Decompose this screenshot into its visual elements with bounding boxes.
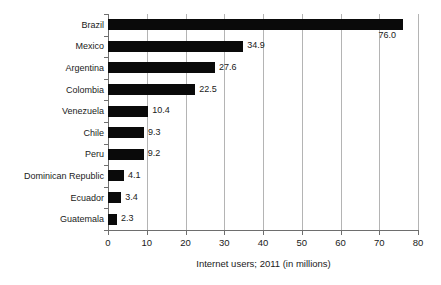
category-label: Colombia [0,85,104,95]
x-axis-tick-label: 50 [287,237,317,248]
x-axis-tick-label: 10 [132,237,162,248]
x-axis-tick-label: 60 [326,237,356,248]
bar-value-label: 2.3 [121,213,134,224]
y-axis-tick [104,165,108,166]
bar-value-label: 34.9 [247,40,265,51]
x-axis-tick-50 [302,231,303,235]
category-label: Mexico [0,41,104,51]
plot-area: 76.034.927.622.510.49.39.24.13.42.3 [108,14,418,230]
x-axis-tick-label: 30 [209,237,239,248]
bar-value-label: 10.4 [152,105,170,116]
y-axis-tick [104,79,108,80]
x-axis-tick-0 [108,231,109,235]
bar-row: 22.5 [108,79,418,101]
bar-row: 4.1 [108,165,418,187]
x-axis-tick-label: 20 [171,237,201,248]
x-axis-tick-40 [263,231,264,235]
bar [108,192,121,203]
y-axis-tick [104,122,108,123]
bar-row: 3.4 [108,187,418,209]
x-axis-tick-label: 70 [364,237,394,248]
bar-chart: BrazilMexicoArgentinaColombiaVenezuelaCh… [0,0,441,285]
y-axis-tick [104,36,108,37]
bar [108,62,215,73]
bar-row: 2.3 [108,208,418,230]
category-label: Guatemala [0,214,104,224]
category-label: Venezuela [0,106,104,116]
bar-row: 9.2 [108,144,418,166]
x-axis-tick-70 [379,231,380,235]
bar [108,19,403,30]
bar-row: 76.0 [108,14,418,36]
x-axis-tick-30 [224,231,225,235]
y-axis-category-labels: BrazilMexicoArgentinaColombiaVenezuelaCh… [0,14,104,230]
bar-row: 34.9 [108,36,418,58]
bar-value-label: 3.4 [125,192,138,203]
category-label: Peru [0,149,104,159]
x-axis-tick-20 [186,231,187,235]
bar-value-label: 9.3 [148,127,161,138]
bar-value-label: 4.1 [128,170,141,181]
y-axis-tick [104,14,108,15]
bar [108,41,243,52]
gridline-80 [418,14,419,230]
x-axis-tick-label: 40 [248,237,278,248]
x-axis-tick-label: 0 [93,237,123,248]
y-axis-tick [104,57,108,58]
x-axis-tick-10 [147,231,148,235]
bar-value-label: 9.2 [148,148,161,159]
bar-row: 10.4 [108,100,418,122]
category-label: Argentina [0,63,104,73]
bar [108,84,195,95]
x-axis-tick-80 [418,231,419,235]
bar [108,149,144,160]
bar [108,106,148,117]
bar-value-label: 22.5 [199,84,217,95]
category-label: Ecuador [0,193,104,203]
category-label: Brazil [0,20,104,30]
bar [108,127,144,138]
bar-row: 9.3 [108,122,418,144]
bar-value-label: 27.6 [219,62,237,73]
x-axis-tick-60 [341,231,342,235]
y-axis-tick [104,208,108,209]
y-axis-tick [104,144,108,145]
y-axis-tick [104,230,108,231]
bar [108,214,117,225]
bar [108,170,124,181]
category-label: Chile [0,128,104,138]
x-axis-tick-label: 80 [403,237,433,248]
y-axis-tick [104,187,108,188]
bar-row: 27.6 [108,57,418,79]
y-axis-tick [104,100,108,101]
category-label: Dominican Republic [0,171,104,181]
x-axis-title: Internet users; 2011 (in millions) [108,258,419,270]
